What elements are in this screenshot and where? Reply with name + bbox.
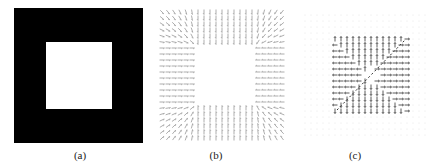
caption-a: (a) (60, 149, 100, 161)
caption-b: (b) (196, 149, 236, 161)
panel-c-vector-field (0, 0, 438, 168)
caption-c: (c) (335, 149, 375, 161)
